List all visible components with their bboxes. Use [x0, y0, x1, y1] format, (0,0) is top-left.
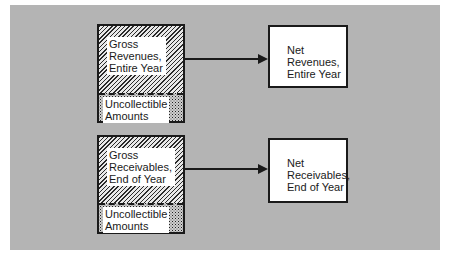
uncollectible-amounts-label: Uncollectible Amounts — [103, 207, 169, 233]
uncollectible-amounts-segment: Uncollectible Amounts — [99, 203, 183, 232]
uncollectible-amounts-label: Uncollectible Amounts — [103, 97, 169, 123]
uncollectible-amounts-segment: Uncollectible Amounts — [99, 93, 183, 121]
net-receivables-label: Net Receivables, End of Year — [287, 157, 350, 193]
arrow-right-icon — [185, 58, 266, 60]
gross-revenues-label: Gross Revenues, Entire Year — [107, 37, 166, 75]
gross-receivables-label: Gross Receivables, End of Year — [107, 148, 175, 186]
diagram-panel — [10, 5, 440, 250]
gross-revenues-box: Gross Revenues, Entire Year Uncollectibl… — [97, 24, 185, 123]
gross-receivables-box: Gross Receivables, End of Year Uncollect… — [97, 135, 185, 234]
net-receivables-box: Net Receivables, End of Year — [268, 138, 348, 203]
net-revenues-label: Net Revenues, Entire Year — [287, 44, 341, 80]
net-revenues-box: Net Revenues, Entire Year — [268, 25, 348, 88]
arrow-right-icon — [185, 168, 266, 170]
